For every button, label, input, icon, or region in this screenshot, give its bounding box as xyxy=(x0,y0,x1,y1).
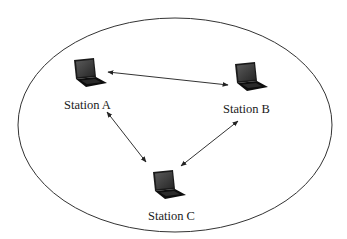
station-c-laptop-icon xyxy=(153,170,186,199)
network-boundary-ellipse xyxy=(18,18,332,232)
link-a-c-arrow xyxy=(107,112,146,162)
station-b-label: Station B xyxy=(223,103,270,116)
station-a-label: Station A xyxy=(64,99,111,112)
station-b-laptop-icon xyxy=(235,62,268,91)
station-c-label: Station C xyxy=(148,210,195,223)
link-b-c-arrow xyxy=(181,121,238,166)
diagram-canvas: Station A Station B Station C xyxy=(0,0,347,239)
station-a-laptop-icon xyxy=(74,58,107,87)
link-a-b-arrow xyxy=(108,72,228,85)
network-diagram xyxy=(0,0,347,239)
